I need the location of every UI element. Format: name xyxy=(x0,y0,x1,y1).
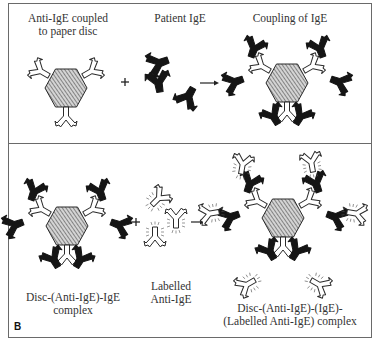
labelled-anti-ige-group xyxy=(140,183,187,247)
bound-ige-icon xyxy=(107,211,134,240)
labelled-anti-ige-icon xyxy=(229,152,255,181)
labelled-anti-ige-icon xyxy=(144,222,166,248)
labelled-anti-ige-icon xyxy=(232,268,265,300)
disc-icon xyxy=(262,199,304,237)
diagram-art xyxy=(0,0,382,346)
disc-icon xyxy=(46,207,88,245)
labelled-anti-ige-icon xyxy=(165,208,187,234)
bound-ige-icon xyxy=(327,68,354,97)
arrow-icon xyxy=(200,81,219,86)
coupled-ige-group xyxy=(220,34,354,130)
anti-ige-icon xyxy=(55,107,77,127)
final-complex-group xyxy=(197,150,368,299)
disc-icon xyxy=(45,69,87,107)
disc-icon xyxy=(266,64,308,102)
bound-ige-icon xyxy=(323,203,350,232)
bound-ige-icon xyxy=(305,34,334,61)
plus-icon xyxy=(132,218,140,226)
bound-ige-icon xyxy=(240,34,269,61)
bound-ige-icon xyxy=(220,68,247,97)
patient-ige-group xyxy=(144,48,204,112)
plus-icon xyxy=(121,78,129,86)
bound-ige-icon xyxy=(85,177,114,204)
bound-ige-icon xyxy=(0,211,27,240)
disc-anti-ige-ige-complex xyxy=(0,177,134,273)
patient-ige-icon xyxy=(172,82,204,113)
bound-ige-icon xyxy=(20,177,49,204)
bound-ige-icon xyxy=(301,169,330,196)
bound-ige-icon xyxy=(216,203,243,232)
anti-ige-disc-group xyxy=(26,56,106,127)
labelled-anti-ige-icon xyxy=(301,268,334,300)
